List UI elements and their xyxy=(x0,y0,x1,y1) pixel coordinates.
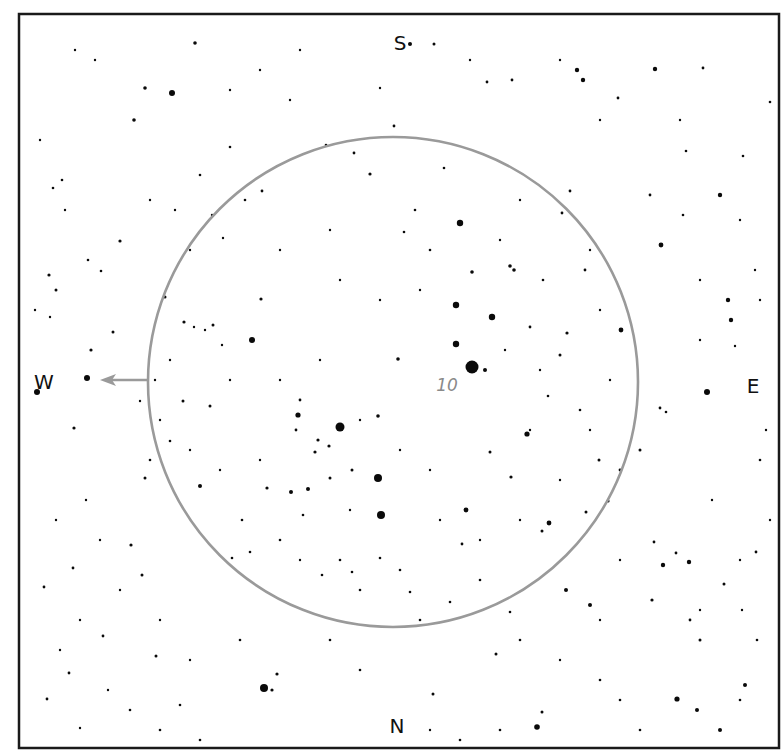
star xyxy=(519,519,521,521)
star xyxy=(459,739,462,742)
star xyxy=(396,357,400,361)
star xyxy=(61,179,64,182)
star xyxy=(679,119,681,121)
star xyxy=(469,59,471,61)
star xyxy=(419,289,421,291)
star xyxy=(209,405,212,408)
star xyxy=(79,727,81,729)
star xyxy=(34,309,36,311)
star xyxy=(541,711,544,714)
star xyxy=(689,619,692,622)
star xyxy=(619,699,622,702)
star xyxy=(169,359,171,361)
star xyxy=(429,729,431,731)
star xyxy=(599,119,601,121)
star xyxy=(619,328,624,333)
star xyxy=(499,729,502,732)
star xyxy=(299,49,301,51)
star xyxy=(139,400,141,402)
star xyxy=(486,81,489,84)
star xyxy=(89,348,92,351)
star xyxy=(249,551,252,554)
star xyxy=(579,409,582,412)
star xyxy=(581,78,585,82)
star xyxy=(682,214,685,217)
star xyxy=(193,326,195,328)
star xyxy=(259,297,262,300)
star xyxy=(295,429,298,432)
star xyxy=(650,598,653,601)
star xyxy=(329,477,332,480)
star xyxy=(599,679,602,682)
star xyxy=(351,571,354,574)
star xyxy=(541,530,544,533)
star xyxy=(229,89,231,91)
star xyxy=(329,639,332,642)
star xyxy=(259,459,261,461)
star xyxy=(327,444,330,447)
star xyxy=(189,449,191,451)
star xyxy=(368,172,371,175)
star xyxy=(609,379,611,381)
star xyxy=(154,379,156,381)
star xyxy=(653,541,656,544)
star xyxy=(132,118,136,122)
star xyxy=(519,199,521,201)
star xyxy=(754,269,756,271)
star xyxy=(229,379,231,381)
star xyxy=(244,199,247,202)
star xyxy=(374,474,382,482)
star xyxy=(470,270,474,274)
star xyxy=(704,389,710,395)
star xyxy=(711,499,713,501)
star xyxy=(639,729,642,732)
star xyxy=(585,511,588,514)
star xyxy=(699,339,701,341)
star xyxy=(339,279,341,281)
star xyxy=(408,42,412,46)
star xyxy=(299,399,302,402)
star xyxy=(198,484,202,488)
star xyxy=(94,59,96,61)
star xyxy=(353,152,356,155)
star xyxy=(443,167,446,170)
star xyxy=(144,477,147,480)
star xyxy=(129,543,132,546)
star xyxy=(349,509,351,511)
star xyxy=(377,511,385,519)
star xyxy=(221,344,223,346)
star xyxy=(316,438,319,441)
star xyxy=(306,487,310,491)
star xyxy=(239,639,242,642)
star xyxy=(47,273,50,276)
star xyxy=(72,567,75,570)
star xyxy=(414,209,417,212)
star xyxy=(112,331,115,334)
star xyxy=(769,519,771,521)
star xyxy=(119,589,121,591)
star xyxy=(542,279,545,282)
star xyxy=(275,672,278,675)
star xyxy=(219,469,221,471)
star xyxy=(695,708,699,712)
star xyxy=(512,268,516,272)
star xyxy=(508,264,512,268)
star xyxy=(321,574,324,577)
star xyxy=(313,450,316,453)
star xyxy=(289,490,293,494)
star xyxy=(143,86,147,90)
star xyxy=(199,174,202,177)
star xyxy=(439,519,441,521)
star xyxy=(359,419,361,421)
star xyxy=(529,429,531,431)
star xyxy=(699,609,701,611)
star xyxy=(742,155,745,158)
star xyxy=(529,326,532,329)
star xyxy=(519,639,522,642)
star xyxy=(584,269,587,272)
star xyxy=(726,298,730,302)
star xyxy=(718,193,722,197)
star xyxy=(295,412,300,417)
direction-label-w: W xyxy=(34,370,54,394)
star xyxy=(222,237,224,239)
